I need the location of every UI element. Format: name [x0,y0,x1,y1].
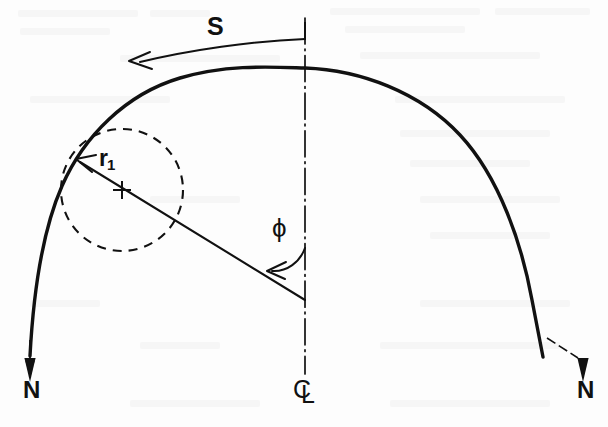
arch-profile-curve [30,67,543,357]
phi-angle-arc [267,248,305,279]
radius-label-subscript: 1 [107,156,115,173]
centerline-symbol: C L [293,377,321,411]
angle-phi-label: ϕ [272,215,287,241]
radius-leader-line [76,155,305,300]
normal-force-label-right: N [577,378,594,402]
normal-force-label-left: N [23,378,40,402]
centerline-symbol-l: L [301,382,315,407]
radius-label: r1 [99,147,116,170]
arc-length-label: S [207,14,224,39]
diagram-canvas: S r1 ϕ N N C L [0,0,608,427]
